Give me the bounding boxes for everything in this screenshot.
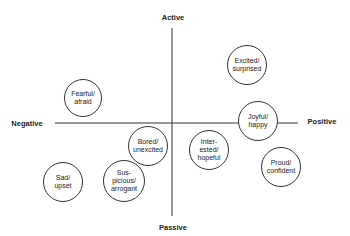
emotion-label: Proud/ confident xyxy=(267,159,295,175)
emotion-joyful: Joyful/ happy xyxy=(238,101,278,141)
axis-label-negative: Negative xyxy=(11,119,42,128)
emotion-proud: Proud/ confident xyxy=(261,147,301,187)
axis-label-passive: Passive xyxy=(159,223,187,232)
emotion-sad: Sad/ upset xyxy=(43,162,83,202)
emotion-fearful: Fearful/ afraid xyxy=(64,79,102,117)
axes-canvas xyxy=(0,0,350,236)
emotion-suspicious: Sus- picious/ arrogant xyxy=(103,160,145,202)
axis-label-positive: Positive xyxy=(308,117,337,126)
emotion-label: Sad/ upset xyxy=(54,174,71,190)
emotion-label: Fearful/ afraid xyxy=(71,90,95,106)
emotion-bored: Bored/ unexcited xyxy=(128,126,168,166)
emotion-excited: Excited/ surprised xyxy=(227,45,267,85)
emotion-label: Excited/ surprised xyxy=(233,57,262,73)
emotion-label: Sus- picious/ arrogant xyxy=(111,169,137,193)
emotion-label: Inter- ested/ hopeful xyxy=(198,138,221,162)
axis-label-active: Active xyxy=(162,13,185,22)
emotion-interested: Inter- ested/ hopeful xyxy=(189,130,229,170)
emotion-label: Bored/ unexcited xyxy=(133,138,163,154)
emotion-label: Joyful/ happy xyxy=(248,113,268,129)
